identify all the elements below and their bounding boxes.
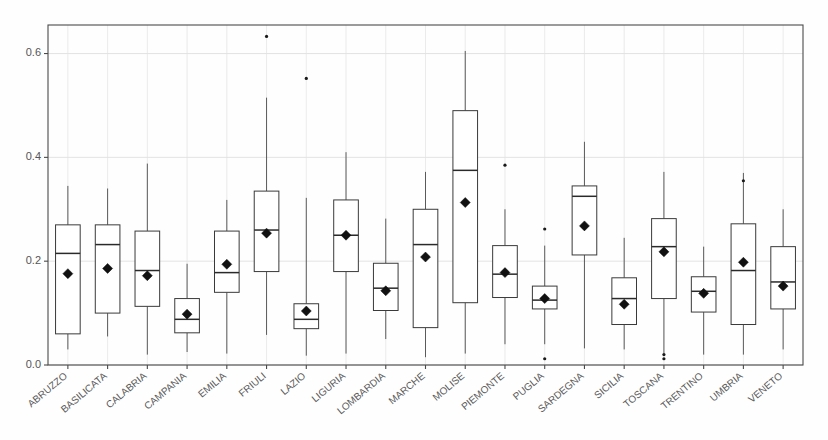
y-tick-label: 0.0 [26, 358, 41, 370]
y-axis: 0.00.20.40.6 [26, 46, 48, 369]
outlier-point [265, 35, 268, 38]
x-tick-label-lazio: LAZIO [278, 370, 307, 397]
boxplot-puglia [532, 227, 557, 360]
boxplot-marche [413, 172, 438, 357]
box-iqr [56, 225, 81, 334]
x-tick-label-veneto: VENETO [746, 370, 785, 405]
boxplot-umbria [731, 173, 756, 355]
x-tick-label-emilia: EMILIA [196, 370, 228, 400]
boxplot-calabria [135, 164, 160, 355]
outlier-point [662, 357, 665, 360]
boxplot-lombardia [373, 219, 398, 339]
y-tick-label: 0.2 [26, 254, 41, 266]
outlier-point [543, 227, 546, 230]
x-tick-label-piemonte: PIEMONTE [459, 370, 506, 412]
x-axis: ABRUZZOBASILICATACALABRIACAMPANIAEMILIAF… [25, 365, 784, 416]
x-tick-label-umbria: UMBRIA [708, 370, 745, 404]
y-tick-label: 0.6 [26, 46, 41, 58]
outlier-point [742, 179, 745, 182]
boxplot-molise [453, 51, 478, 354]
x-tick-label-marche: MARCHE [387, 370, 428, 406]
y-tick-label: 0.4 [26, 150, 41, 162]
box-iqr [771, 247, 796, 309]
boxplot-sicilia [612, 238, 637, 350]
outlier-point [543, 357, 546, 360]
outlier-point [503, 164, 506, 167]
boxplot-canvas: 0.00.20.40.6 ABRUZZOBASILICATACALABRIACA… [0, 0, 828, 440]
box-iqr [135, 231, 160, 306]
x-tick-label-campania: CAMPANIA [142, 370, 189, 412]
x-tick-label-friuli: FRIULI [237, 370, 268, 399]
x-tick-label-molise: MOLISE [430, 370, 466, 403]
boxplot-veneto [771, 209, 796, 349]
x-tick-label-puglia: PUGLIA [511, 370, 546, 402]
boxplot-campania [175, 264, 200, 352]
boxplot-toscana [652, 172, 677, 360]
box-iqr [652, 219, 677, 299]
outlier-point [305, 77, 308, 80]
x-tick-label-liguria: LIGURIA [310, 370, 348, 404]
boxplot-liguria [334, 152, 359, 353]
boxplot-trentino [691, 247, 716, 355]
boxplot-emilia [214, 200, 239, 354]
outlier-point [662, 353, 665, 356]
boxplot-basilicata [95, 189, 120, 337]
boxplot-sardegna [572, 142, 597, 349]
box-iqr [413, 209, 438, 327]
boxplot-abruzzo [56, 186, 81, 350]
boxplot-figure: 0.00.20.40.6 ABRUZZOBASILICATACALABRIACA… [0, 0, 828, 440]
box-iqr [731, 224, 756, 325]
x-tick-label-trentino: TRENTINO [659, 370, 705, 411]
x-tick-label-sicilia: SICILIA [592, 370, 626, 401]
